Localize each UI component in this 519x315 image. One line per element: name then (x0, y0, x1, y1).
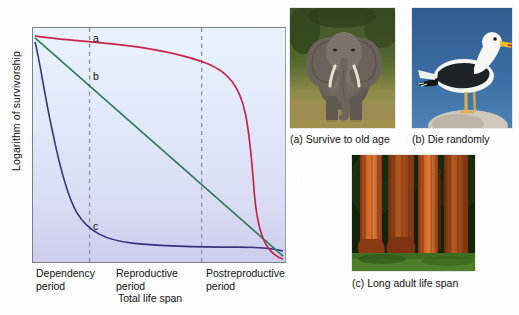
figure-page: . Logarithm of survivorship a b c Depend… (0, 0, 519, 315)
redwood-illustration (352, 155, 475, 271)
gull-illustration (412, 8, 512, 128)
plot-area (32, 27, 286, 263)
x-period-label-postreproductive: Postreproductive period (206, 267, 285, 292)
curve-label-b: b (93, 70, 99, 82)
photo-gull (412, 8, 512, 128)
x-period-label-dependency: Dependency period (36, 267, 95, 292)
photo-caption-c: (c) Long adult life span (352, 277, 458, 289)
photo-caption-a: (a) Survive to old age (290, 133, 390, 145)
x-period-label-reproductive: Reproductive period (116, 267, 178, 292)
plot-svg (33, 28, 285, 262)
photo-caption-b: (b) Die randomly (412, 133, 490, 145)
photo-elephant (290, 8, 395, 128)
page-showthrough: . (300, 170, 303, 182)
curve-b-type-ii (35, 38, 283, 256)
elephant-illustration (290, 8, 395, 128)
survivorship-curve-chart: Logarithm of survivorship a b c Dependen… (0, 0, 300, 315)
photo-redwood (352, 155, 475, 271)
curve-label-a: a (93, 32, 99, 44)
curve-label-c: c (93, 220, 98, 232)
x-axis-title: Total life span (118, 292, 182, 304)
y-axis-title: Logarithm of survivorship (10, 11, 22, 211)
